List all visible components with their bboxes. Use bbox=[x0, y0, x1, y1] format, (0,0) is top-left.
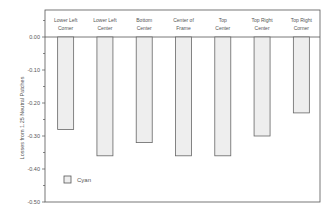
legend: Cyan bbox=[64, 176, 91, 183]
category-label: Corner bbox=[58, 25, 74, 31]
category-label: Lower Left bbox=[93, 17, 117, 23]
category-label: Center bbox=[97, 25, 112, 31]
category-label: Top bbox=[219, 17, 227, 23]
y-axis-label: Losses from 1.25 Neutral Patches bbox=[19, 76, 25, 159]
category-label: Center of bbox=[173, 17, 194, 23]
y-axis: 0.00-0.10-0.20-0.30-0.40-0.50 bbox=[27, 21, 45, 206]
bar bbox=[254, 37, 270, 136]
category-label: Corner bbox=[294, 25, 310, 31]
bars bbox=[58, 37, 310, 156]
bar bbox=[176, 37, 192, 156]
category-label: Top Right bbox=[291, 17, 313, 23]
y-tick-label: -0.40 bbox=[27, 166, 40, 172]
category-label: Center bbox=[255, 25, 270, 31]
category-label: Top Right bbox=[252, 17, 274, 23]
bar-chart: 0.00-0.10-0.20-0.30-0.40-0.50 Lower Left… bbox=[0, 0, 334, 215]
y-tick-label: 0.00 bbox=[29, 34, 40, 40]
bar bbox=[136, 37, 152, 143]
y-tick-label: -0.30 bbox=[27, 133, 40, 139]
bar bbox=[293, 37, 309, 113]
category-label: Lower Left bbox=[54, 17, 78, 23]
legend-swatch-cyan bbox=[64, 176, 71, 183]
bar bbox=[58, 37, 74, 129]
y-tick-label: -0.10 bbox=[27, 67, 40, 73]
category-label: Center bbox=[215, 25, 230, 31]
bar bbox=[97, 37, 113, 156]
category-label: Bottom bbox=[136, 17, 152, 23]
y-tick-label: -0.50 bbox=[27, 199, 40, 205]
category-label: Center bbox=[137, 25, 152, 31]
bar bbox=[215, 37, 231, 156]
category-labels: Lower LeftCornerLower LeftCenterBottomCe… bbox=[54, 17, 313, 31]
legend-label-cyan: Cyan bbox=[77, 177, 91, 183]
y-tick-label: -0.20 bbox=[27, 100, 40, 106]
category-label: Frame bbox=[176, 25, 191, 31]
